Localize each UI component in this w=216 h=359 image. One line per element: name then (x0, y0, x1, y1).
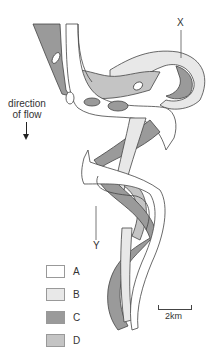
x-marker-label: X (177, 17, 184, 28)
y-marker-label: Y (93, 240, 100, 251)
scale-bar (158, 305, 192, 310)
legend-swatch-d (46, 334, 65, 347)
island-1 (66, 92, 74, 104)
direction-of-flow-label: direction of flow (6, 98, 48, 120)
legend-label-b: B (73, 289, 80, 300)
legend-item-a: A (46, 260, 80, 283)
legend-item-c: C (46, 306, 80, 329)
legend-label-d: D (73, 335, 80, 346)
island-3 (108, 101, 128, 111)
direction-label-line1: direction (6, 98, 48, 109)
scale-bar-label: 2km (165, 311, 182, 321)
legend-swatch-a (46, 265, 65, 278)
direction-label-line2: of flow (6, 109, 48, 120)
legend-swatch-b (46, 288, 65, 301)
channel-c-upper-left (33, 24, 70, 96)
legend: A B C D (46, 260, 80, 352)
flow-arrow-down-icon (23, 134, 29, 140)
legend-label-c: C (73, 312, 80, 323)
legend-item-d: D (46, 329, 80, 352)
legend-swatch-c (46, 311, 65, 324)
legend-label-a: A (73, 266, 80, 277)
island-2 (84, 98, 100, 106)
legend-item-b: B (46, 283, 80, 306)
